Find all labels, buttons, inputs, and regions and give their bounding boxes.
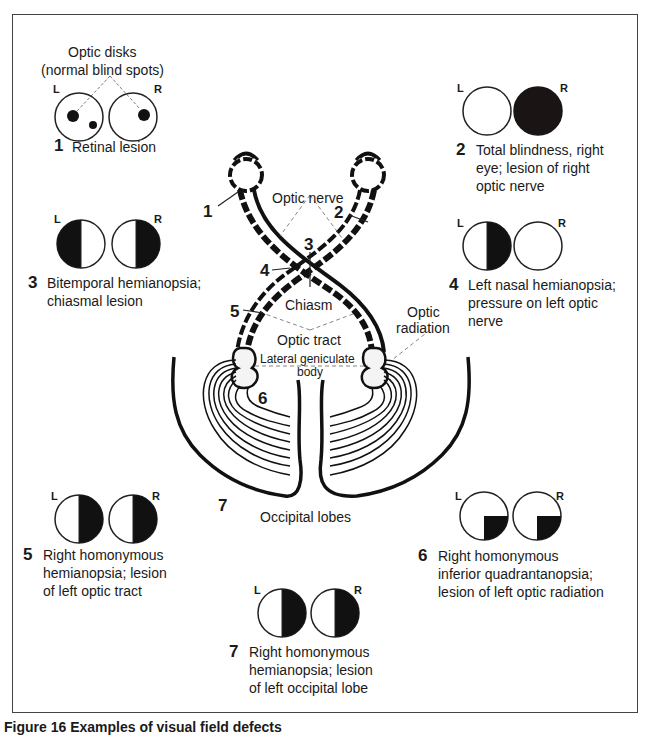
panel-7-left-label: L <box>254 584 261 596</box>
occipital-lobes-label: Occipital lobes <box>260 509 351 526</box>
panel-3-left-label: L <box>54 213 61 225</box>
panel-4-line-1: Left nasal hemianopsia; <box>468 277 616 294</box>
pointer-lines <box>218 192 368 313</box>
panel-5-number: 5 <box>23 546 32 563</box>
panel-1-fields <box>55 76 157 141</box>
panel-5-left-label: L <box>51 490 58 502</box>
panel-4-line-3: nerve <box>468 313 503 330</box>
optic-radiation-label-2: radiation <box>396 320 450 337</box>
optic-nerve-label: Optic nerve <box>272 190 344 207</box>
optic-radiation-label-1: Optic <box>407 304 440 321</box>
panel-1-description: Retinal lesion <box>72 139 156 156</box>
panel-6-number: 6 <box>418 547 427 564</box>
panel-1-left-label: L <box>53 83 60 95</box>
panel-7-number: 7 <box>229 643 238 660</box>
panel-2-line-3: optic nerve <box>476 178 544 195</box>
panel-2-number: 2 <box>456 141 465 158</box>
panel-7-line-2: hemianopsia; lesion <box>249 662 373 679</box>
panel-3-line-1: Bitemporal hemianopsia; <box>47 275 201 292</box>
panel-4-line-2: pressure on left optic <box>468 295 598 312</box>
panel-5-right-label: R <box>152 490 160 502</box>
panel-7-line-3: of left occipital lobe <box>249 680 368 697</box>
panel-4-left-label: L <box>457 217 464 229</box>
panel-4-fields <box>463 222 562 270</box>
panel-4-number: 4 <box>449 276 458 293</box>
panel-3-fields <box>57 220 160 268</box>
panel-6-left-label: L <box>455 490 462 502</box>
optic-disks-label-1: Optic disks <box>68 44 136 61</box>
panel-2-line-1: Total blindness, right <box>476 142 604 159</box>
optic-tract-label: Optic tract <box>277 332 341 349</box>
panel-7-fields <box>258 589 359 637</box>
marker-1: 1 <box>203 203 212 220</box>
panel-6-line-1: Right homonymous <box>438 548 559 565</box>
optic-disks-label-2: (normal blind spots) <box>41 62 164 79</box>
right-eye <box>352 153 384 191</box>
figure-caption: Figure 16 Examples of visual field defec… <box>4 719 282 735</box>
panel-5-fields <box>55 495 157 543</box>
chiasm-label: Chiasm <box>285 297 332 314</box>
panel-2-line-2: eye; lesion of right <box>476 160 590 177</box>
panel-3-line-2: chiasmal lesion <box>47 293 143 310</box>
panel-4-right-label: R <box>558 217 566 229</box>
panel-1-right-label: R <box>154 83 162 95</box>
panel-6-fields <box>460 492 561 540</box>
panel-5-line-2: hemianopsia; lesion <box>43 565 167 582</box>
panel-6-right-label: R <box>556 490 564 502</box>
lgb-label-2: body <box>297 364 323 381</box>
panel-2-right-label: R <box>560 82 568 94</box>
panel-3-number: 3 <box>28 274 37 291</box>
marker-5: 5 <box>230 303 239 320</box>
panel-6-line-3: lesion of left optic radiation <box>438 584 604 601</box>
panel-2-left-label: L <box>457 82 464 94</box>
left-eye <box>230 153 262 191</box>
panel-5-line-1: Right homonymous <box>43 547 164 564</box>
marker-3: 3 <box>304 236 313 253</box>
panel-7-line-1: Right homonymous <box>249 644 370 661</box>
panel-1-number: 1 <box>54 137 63 154</box>
panel-5-line-3: of left optic tract <box>43 583 142 600</box>
marker-6: 6 <box>258 390 267 407</box>
marker-7: 7 <box>218 497 227 514</box>
panel-3-right-label: R <box>154 213 162 225</box>
panel-2-fields <box>463 87 562 135</box>
panel-6-line-2: inferior quadrantanopsia; <box>438 566 593 583</box>
marker-4: 4 <box>260 262 269 279</box>
panel-7-right-label: R <box>354 584 362 596</box>
